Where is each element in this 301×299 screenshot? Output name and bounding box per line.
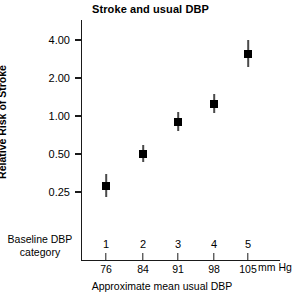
- y-axis-tick: [75, 39, 82, 40]
- x-axis-tick: [213, 253, 214, 261]
- data-point-marker: [102, 182, 110, 190]
- category-number-label: 2: [140, 238, 146, 250]
- x-axis-tick-label: 98: [208, 263, 220, 275]
- category-number-label: 5: [245, 238, 251, 250]
- x-axis-tick-label: 91: [172, 263, 184, 275]
- data-point-marker: [210, 100, 218, 108]
- x-axis-tick: [142, 253, 143, 261]
- y-axis-tick: [75, 115, 82, 116]
- x-axis-unit-label: mm Hg: [258, 261, 292, 273]
- y-axis-tick-label: 0.50: [24, 148, 70, 160]
- chart-container: Stroke and usual DBP Relative Risk of St…: [0, 0, 301, 299]
- x-axis-line: [81, 260, 280, 261]
- category-number-label: 3: [175, 238, 181, 250]
- y-axis-tick-label: 1.00: [24, 110, 70, 122]
- category-row-divider: [81, 231, 82, 261]
- data-point-marker: [174, 118, 182, 126]
- y-axis-tick: [75, 191, 82, 192]
- y-axis-tick-label: 4.00: [24, 34, 70, 46]
- y-axis-tick-label: 2.00: [24, 72, 70, 84]
- plot-area: [82, 20, 280, 242]
- chart-title: Stroke and usual DBP: [0, 3, 301, 15]
- x-axis-tick-label: 84: [137, 263, 149, 275]
- x-axis-tick: [247, 253, 248, 261]
- baseline-category-label: Baseline DBP category: [2, 233, 78, 259]
- y-axis-title: Relative Risk of Stroke: [0, 52, 10, 192]
- y-axis-tick: [75, 153, 82, 154]
- x-axis-tick-label: 105: [239, 263, 257, 275]
- y-axis-tick: [75, 77, 82, 78]
- x-axis-tick: [105, 253, 106, 261]
- x-axis-tick: [177, 253, 178, 261]
- x-axis-title: Approximate mean usual DBP: [62, 280, 262, 292]
- y-axis-tick-label: 0.25: [24, 186, 70, 198]
- category-number-label: 1: [103, 238, 109, 250]
- x-axis-tick-label: 76: [100, 263, 112, 275]
- data-point-marker: [139, 150, 147, 158]
- data-point-marker: [244, 50, 252, 58]
- category-number-label: 4: [211, 238, 217, 250]
